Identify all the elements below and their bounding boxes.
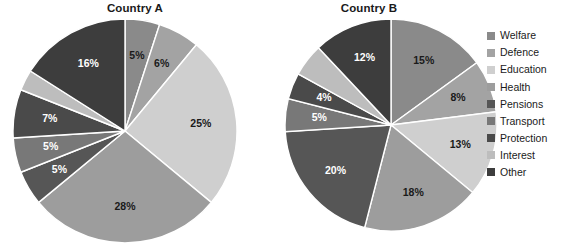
legend-item-label: Transport [500,116,545,127]
legend-swatch-icon [487,66,495,74]
legend-swatch-icon [487,134,495,142]
pie-slice-label: 20% [325,164,347,176]
pie-slice-label: 7% [42,112,58,124]
pie-country-a: 5%6%25%28%5%5%7%16% [12,18,238,244]
pie-slice-label: 16% [78,57,100,69]
legend-item-health[interactable]: Health [487,78,562,95]
chart-title-country-a: Country A [0,2,270,14]
legend-item-label: Education [500,64,547,75]
legend-item-other[interactable]: Other [487,164,562,181]
legend-item-label: Protection [500,133,547,144]
legend-item-welfare[interactable]: Welfare [487,27,562,44]
pie-slice-label: 6% [154,57,170,69]
pie-slice-label: 15% [413,54,435,66]
legend-swatch-icon [487,49,495,57]
pie-slice-label: 8% [450,91,466,103]
legend-swatch-icon [487,151,495,159]
legend-item-label: Interest [500,150,535,161]
legend-swatch-icon [487,83,495,91]
pie-slice-label: 5% [52,163,68,175]
legend-item-defence[interactable]: Defence [487,44,562,61]
legend-swatch-icon [487,168,495,176]
pie-country-b: 15%8%13%18%20%5%4%12% [284,18,498,232]
pie-slices-country-b [285,19,497,231]
legend-item-label: Welfare [500,30,536,41]
legend-item-pensions[interactable]: Pensions [487,95,562,112]
legend-item-education[interactable]: Education [487,61,562,78]
legend-item-label: Defence [500,47,539,58]
legend-item-label: Other [500,167,526,178]
pie-slice-label: 5% [129,49,145,61]
pie-slice-label: 25% [190,117,212,129]
legend-swatch-icon [487,32,495,40]
legend-item-label: Health [500,82,530,93]
chart-legend: WelfareDefenceEducationHealthPensionsTra… [487,27,562,181]
pie-slice-label: 18% [403,186,425,198]
chart-title-country-b: Country B [264,2,474,14]
pie-slice-label: 4% [316,91,332,103]
legend-item-transport[interactable]: Transport [487,112,562,129]
legend-swatch-icon [487,100,495,108]
pie-slice-label: 13% [450,138,472,150]
pie-slice-label: 28% [114,200,136,212]
chart-panel-country-b: Country B 15%8%13%18%20%5%4%12% [264,0,474,251]
chart-panel-country-a: Country A 5%6%25%28%5%5%7%16% [0,0,270,251]
legend-swatch-icon [487,117,495,125]
pie-chart-figure: Country A 5%6%25%28%5%5%7%16% Country B … [0,0,562,251]
pie-svg-country-b: 15%8%13%18%20%5%4%12% [284,18,498,232]
pie-slice-label: 5% [312,111,328,123]
legend-item-protection[interactable]: Protection [487,130,562,147]
pie-slice-label: 12% [354,51,376,63]
legend-item-label: Pensions [500,99,543,110]
pie-slice-label: 5% [43,140,59,152]
pie-svg-country-a: 5%6%25%28%5%5%7%16% [12,18,238,244]
legend-item-interest[interactable]: Interest [487,147,562,164]
